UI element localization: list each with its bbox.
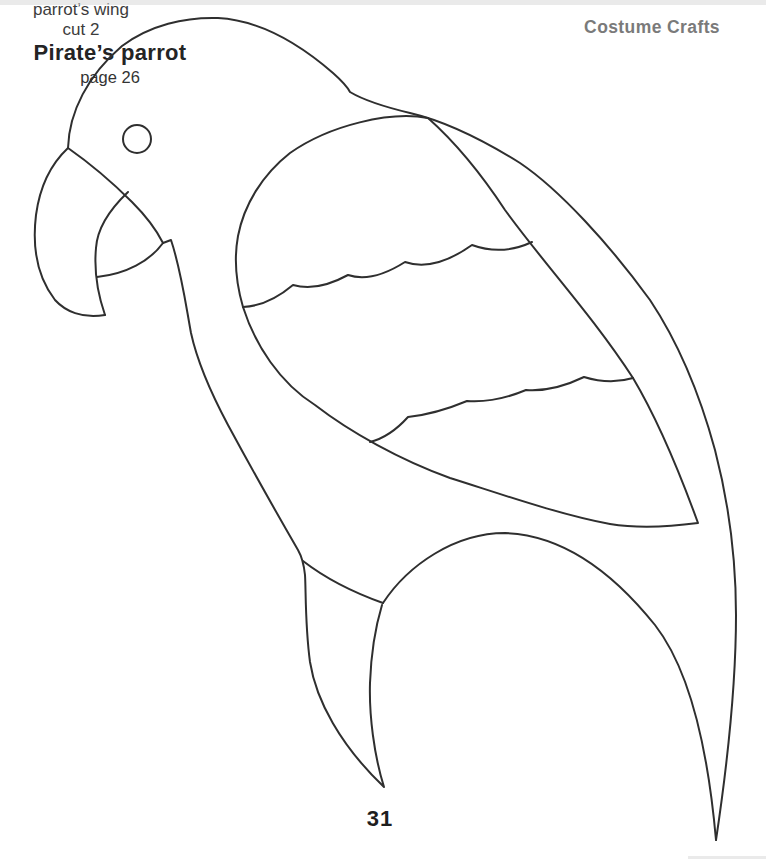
parrot-lower-beak-curve bbox=[97, 243, 163, 277]
scan-artifact-bottom-line bbox=[688, 856, 766, 859]
scan-artifact-top-band bbox=[0, 0, 766, 5]
parrot-head-back-tail-outline bbox=[68, 18, 736, 840]
parrot-line-art bbox=[35, 18, 736, 840]
parrot-eye bbox=[123, 125, 151, 153]
book-section-header: Costume Crafts bbox=[584, 17, 720, 38]
parrot-face-line bbox=[68, 148, 163, 243]
scanned-book-page: Costume Crafts parrot’s wing cut 2 Pirat… bbox=[0, 0, 766, 861]
parrot-beak-inner-curve bbox=[95, 192, 128, 315]
parrot-chest-and-leg-spike bbox=[163, 240, 384, 787]
parrot-template-figure bbox=[0, 0, 766, 861]
parrot-wing-lower-feather-scallops bbox=[370, 377, 633, 442]
parrot-wing-upper-feather-scallops bbox=[243, 242, 532, 307]
parrot-tail-inner-arch bbox=[383, 533, 716, 840]
parrot-beak-outer-curve bbox=[35, 148, 105, 316]
parrot-leg-spike-top-edge bbox=[303, 561, 383, 603]
parrot-wing-outline bbox=[236, 116, 698, 527]
page-number: 31 bbox=[345, 806, 415, 832]
